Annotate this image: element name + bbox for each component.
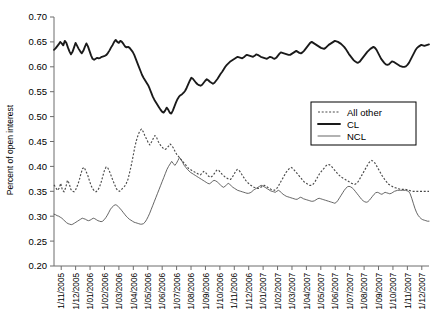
x-tick-label: 1/10/2007: [389, 273, 398, 310]
y-tick-label: 0.65: [29, 36, 48, 47]
y-tick-label: 0.50: [29, 111, 48, 122]
x-tick-label: 1/11/2006: [230, 273, 239, 309]
x-tick-label: 1/11/2007: [404, 273, 413, 309]
y-tick-label: 0.30: [29, 211, 48, 222]
y-tick-label: 0.60: [29, 61, 48, 72]
y-tick-label: 0.40: [29, 161, 48, 172]
y-tick-label: 0.35: [29, 186, 48, 197]
chart-container: Percent of open interest 0.700.650.600.5…: [0, 0, 438, 330]
legend-label: All other: [347, 107, 382, 118]
y-tick-label: 0.20: [29, 260, 48, 271]
y-tick-label: 0.45: [29, 136, 48, 147]
x-tick-label: 1/09/2006: [202, 273, 211, 310]
x-tick-label: 1/05/2007: [317, 273, 326, 310]
x-tick-label: 1/10/2006: [216, 273, 225, 310]
x-tick-label: 1/04/2007: [303, 273, 312, 310]
x-tick-label: 1/01/2007: [259, 273, 268, 310]
x-tick-label: 1/07/2007: [346, 273, 355, 310]
x-tick-label: 1/04/2006: [130, 273, 139, 310]
x-tick-label: 1/08/2006: [187, 273, 196, 310]
y-tick-label: 0.55: [29, 86, 48, 97]
y-tick-label: 0.25: [29, 236, 48, 247]
x-tick-label: 1/03/2006: [115, 273, 124, 310]
legend-label: CL: [347, 119, 359, 130]
y-tick-label: 0.70: [29, 11, 48, 22]
x-tick-label: 1/12/2006: [245, 273, 254, 310]
chart-legend: All otherCLNCL: [311, 102, 416, 145]
x-tick-label: 1/02/2007: [274, 273, 283, 310]
x-tick-label: 1/06/2006: [158, 273, 167, 310]
x-tick-label: 1/07/2006: [173, 273, 182, 310]
x-tick-label: 1/12/2005: [72, 273, 81, 310]
legend-label: NCL: [347, 131, 366, 142]
x-tick-label: 1/06/2007: [331, 273, 340, 310]
x-axis-ticks: 1/11/20051/12/20051/01/20061/02/20061/03…: [57, 266, 427, 309]
x-tick-label: 1/02/2006: [101, 273, 110, 310]
x-tick-label: 1/12/2007: [418, 273, 427, 310]
x-tick-label: 1/08/2007: [360, 273, 369, 310]
x-tick-label: 1/09/2007: [375, 273, 384, 310]
x-tick-label: 1/01/2006: [86, 273, 95, 310]
x-tick-label: 1/11/2005: [57, 273, 66, 309]
x-tick-label: 1/05/2006: [144, 273, 153, 310]
y-axis-ticks: 0.700.650.600.550.500.450.400.350.300.25…: [29, 11, 55, 271]
series-line-ncl: [54, 157, 429, 224]
y-axis-label: Percent of open interest: [5, 104, 15, 195]
line-chart: Percent of open interest 0.700.650.600.5…: [0, 0, 438, 330]
x-tick-label: 1/03/2007: [288, 273, 297, 310]
